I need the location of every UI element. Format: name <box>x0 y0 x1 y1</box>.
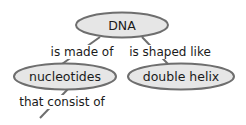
concept-map: is made of is shaped like that consist o… <box>0 0 246 125</box>
node-label-double-helix: double helix <box>143 69 220 84</box>
link-label-is-shaped-like: is shaped like <box>129 45 211 59</box>
node-label-nucleotides: nucleotides <box>29 69 101 84</box>
node-label-dna: DNA <box>108 18 136 33</box>
link-label-is-made-of: is made of <box>51 45 115 59</box>
node-nucleotides[interactable]: nucleotides <box>14 64 116 90</box>
node-dna[interactable]: DNA <box>76 13 168 38</box>
node-double-helix[interactable]: double helix <box>128 64 234 90</box>
link-label-that-consist-of: that consist of <box>19 95 105 109</box>
